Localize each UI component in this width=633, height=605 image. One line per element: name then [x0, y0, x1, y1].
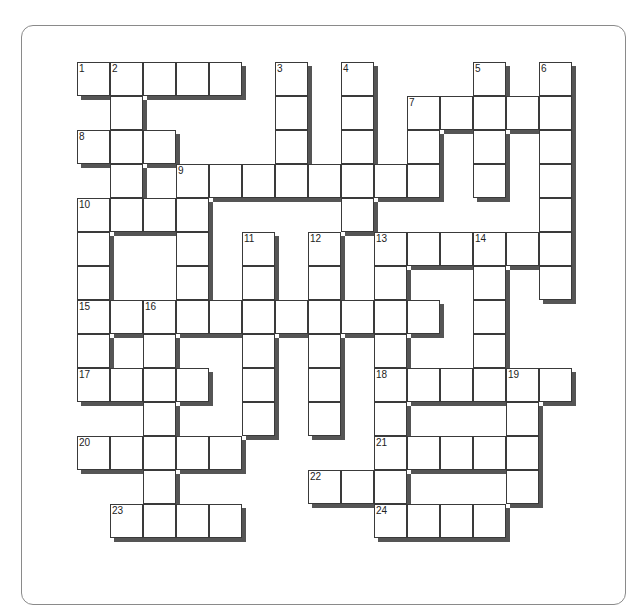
grid-cell[interactable] [374, 266, 407, 300]
grid-cell[interactable] [407, 232, 440, 266]
grid-cell[interactable] [308, 402, 341, 436]
grid-cell[interactable] [143, 504, 176, 538]
grid-cell[interactable] [341, 130, 374, 164]
grid-cell[interactable] [77, 232, 110, 266]
grid-cell[interactable]: 1 [77, 62, 110, 96]
grid-cell[interactable] [242, 164, 275, 198]
grid-cell[interactable] [110, 164, 143, 198]
grid-cell[interactable] [176, 232, 209, 266]
grid-cell[interactable] [539, 96, 572, 130]
grid-cell[interactable]: 20 [77, 436, 110, 470]
grid-cell[interactable]: 11 [242, 232, 275, 266]
grid-cell[interactable] [176, 62, 209, 96]
grid-cell[interactable]: 7 [407, 96, 440, 130]
grid-cell[interactable] [473, 436, 506, 470]
grid-cell[interactable] [110, 96, 143, 130]
grid-cell[interactable] [473, 504, 506, 538]
grid-cell[interactable] [440, 232, 473, 266]
grid-cell[interactable] [176, 436, 209, 470]
grid-cell[interactable] [176, 198, 209, 232]
grid-cell[interactable] [407, 130, 440, 164]
grid-cell[interactable] [440, 368, 473, 402]
grid-cell[interactable] [407, 164, 440, 198]
grid-cell[interactable]: 3 [275, 62, 308, 96]
grid-cell[interactable] [77, 334, 110, 368]
grid-cell[interactable] [473, 266, 506, 300]
grid-cell[interactable] [506, 96, 539, 130]
grid-cell[interactable] [374, 334, 407, 368]
grid-cell[interactable] [275, 96, 308, 130]
grid-cell[interactable] [110, 198, 143, 232]
grid-cell[interactable] [209, 300, 242, 334]
grid-cell[interactable]: 19 [506, 368, 539, 402]
grid-cell[interactable] [77, 266, 110, 300]
grid-cell[interactable] [407, 436, 440, 470]
grid-cell[interactable] [110, 436, 143, 470]
grid-cell[interactable] [209, 164, 242, 198]
grid-cell[interactable] [506, 402, 539, 436]
grid-cell[interactable]: 24 [374, 504, 407, 538]
grid-cell[interactable] [308, 266, 341, 300]
grid-cell[interactable] [143, 368, 176, 402]
grid-cell[interactable] [440, 436, 473, 470]
grid-cell[interactable]: 6 [539, 62, 572, 96]
grid-cell[interactable]: 14 [473, 232, 506, 266]
grid-cell[interactable] [440, 96, 473, 130]
grid-cell[interactable] [374, 300, 407, 334]
grid-cell[interactable] [374, 402, 407, 436]
grid-cell[interactable]: 10 [77, 198, 110, 232]
grid-cell[interactable]: 22 [308, 470, 341, 504]
grid-cell[interactable] [407, 504, 440, 538]
grid-cell[interactable] [176, 300, 209, 334]
grid-cell[interactable] [275, 130, 308, 164]
grid-cell[interactable] [539, 130, 572, 164]
grid-cell[interactable] [242, 402, 275, 436]
grid-cell[interactable] [275, 164, 308, 198]
grid-cell[interactable] [242, 334, 275, 368]
grid-cell[interactable]: 9 [176, 164, 209, 198]
grid-cell[interactable]: 23 [110, 504, 143, 538]
grid-cell[interactable] [539, 232, 572, 266]
grid-cell[interactable] [209, 436, 242, 470]
grid-cell[interactable]: 8 [77, 130, 110, 164]
grid-cell[interactable] [209, 62, 242, 96]
grid-cell[interactable] [473, 164, 506, 198]
grid-cell[interactable] [473, 130, 506, 164]
grid-cell[interactable] [242, 300, 275, 334]
grid-cell[interactable] [539, 198, 572, 232]
grid-cell[interactable] [341, 164, 374, 198]
grid-cell[interactable] [176, 504, 209, 538]
grid-cell[interactable] [242, 368, 275, 402]
grid-cell[interactable]: 13 [374, 232, 407, 266]
grid-cell[interactable] [374, 164, 407, 198]
grid-cell[interactable] [407, 368, 440, 402]
grid-cell[interactable] [242, 266, 275, 300]
grid-cell[interactable]: 21 [374, 436, 407, 470]
grid-cell[interactable] [143, 436, 176, 470]
grid-cell[interactable]: 2 [110, 62, 143, 96]
grid-cell[interactable] [143, 402, 176, 436]
grid-cell[interactable] [209, 504, 242, 538]
grid-cell[interactable] [341, 96, 374, 130]
grid-cell[interactable] [275, 300, 308, 334]
grid-cell[interactable]: 5 [473, 62, 506, 96]
grid-cell[interactable] [440, 504, 473, 538]
grid-cell[interactable]: 15 [77, 300, 110, 334]
grid-cell[interactable] [341, 470, 374, 504]
grid-cell[interactable] [506, 470, 539, 504]
grid-cell[interactable] [473, 300, 506, 334]
grid-cell[interactable] [539, 368, 572, 402]
grid-cell[interactable] [539, 266, 572, 300]
grid-cell[interactable] [143, 470, 176, 504]
grid-cell[interactable] [308, 334, 341, 368]
grid-cell[interactable] [308, 368, 341, 402]
grid-cell[interactable]: 17 [77, 368, 110, 402]
grid-cell[interactable] [143, 334, 176, 368]
grid-cell[interactable] [341, 300, 374, 334]
grid-cell[interactable]: 18 [374, 368, 407, 402]
grid-cell[interactable] [407, 300, 440, 334]
grid-cell[interactable]: 12 [308, 232, 341, 266]
grid-cell[interactable] [176, 266, 209, 300]
grid-cell[interactable] [473, 96, 506, 130]
grid-cell[interactable] [176, 368, 209, 402]
